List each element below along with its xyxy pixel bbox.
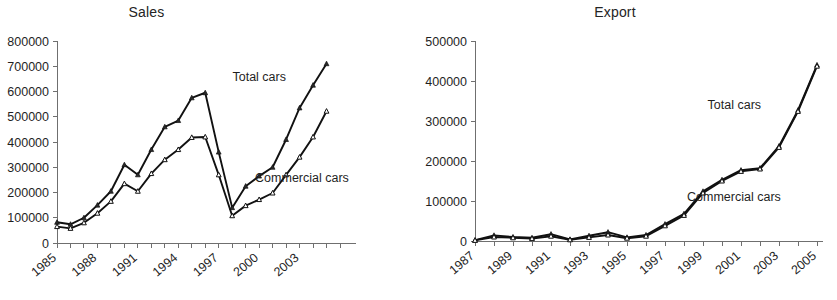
series-annotation-label: Commercial cars (687, 190, 781, 204)
x-tick-label: 1993 (561, 249, 591, 278)
data-point-marker (257, 197, 262, 202)
x-tick-label: 2005 (789, 249, 819, 278)
series-annotation-label: Total cars (708, 98, 762, 112)
chart-page: Sales 0100000200000300000400000500000600… (0, 0, 837, 300)
series-annotation-label: Commercial cars (255, 171, 349, 185)
y-tick-label: 600000 (7, 85, 49, 99)
x-tick-label: 1997 (637, 249, 667, 278)
y-tick-label: 100000 (425, 195, 467, 209)
data-point-marker (216, 150, 221, 155)
data-point-marker (511, 235, 516, 240)
x-tick-label: 1987 (447, 249, 477, 278)
series-line-total-cars (57, 64, 327, 225)
y-tick-label: 0 (42, 237, 49, 251)
data-point-marker (122, 162, 127, 167)
x-tick-label: 1988 (69, 251, 99, 280)
y-tick-label: 0 (460, 235, 467, 249)
x-tick-label: 1989 (485, 249, 515, 278)
y-tick-label: 400000 (425, 75, 467, 89)
x-tick-label: 2001 (713, 249, 743, 278)
x-tick-label: 1999 (675, 249, 705, 278)
y-tick-label: 400000 (7, 136, 49, 150)
series-line-total-cars (475, 65, 817, 240)
x-tick-label: 2000 (231, 251, 261, 280)
x-tick-label: 1985 (29, 251, 59, 280)
x-tick-label: 1997 (190, 251, 220, 280)
x-tick-label: 1991 (109, 251, 139, 280)
y-tick-label: 500000 (425, 35, 467, 49)
y-tick-label: 800000 (7, 35, 49, 49)
data-point-marker (203, 134, 208, 139)
y-tick-label: 200000 (7, 186, 49, 200)
series-annotation-label: Total cars (232, 70, 286, 84)
y-tick-label: 300000 (7, 161, 49, 175)
sales-chart-panel: Sales 0100000200000300000400000500000600… (0, 0, 417, 300)
data-point-marker (815, 64, 820, 69)
x-tick-label: 2003 (271, 251, 301, 280)
data-point-marker (324, 109, 329, 114)
y-tick-label: 700000 (7, 60, 49, 74)
x-tick-label: 1994 (150, 251, 180, 280)
data-point-marker (243, 203, 248, 208)
data-point-marker (568, 237, 573, 242)
data-point-marker (324, 61, 329, 66)
sales-plot-area: 0100000200000300000400000500000600000700… (0, 0, 417, 300)
x-tick-label: 1995 (599, 249, 629, 278)
series-line-commercial-cars (475, 66, 817, 240)
data-point-marker (55, 224, 60, 229)
export-plot-area: 0100000200000300000400000500000198719891… (417, 0, 837, 300)
x-tick-label: 2003 (751, 249, 781, 278)
x-tick-label: 1991 (523, 249, 553, 278)
y-tick-label: 300000 (425, 115, 467, 129)
y-tick-label: 500000 (7, 110, 49, 124)
y-tick-label: 200000 (425, 155, 467, 169)
y-tick-label: 100000 (7, 211, 49, 225)
export-chart-panel: Export 010000020000030000040000050000019… (417, 0, 837, 300)
data-point-marker (189, 135, 194, 140)
data-point-marker (473, 238, 478, 243)
data-point-marker (122, 181, 127, 186)
